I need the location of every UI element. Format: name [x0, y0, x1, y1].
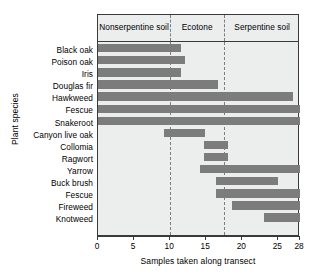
category-label: Douglas fir — [18, 80, 93, 92]
category-label: Hawkweed — [18, 92, 93, 104]
x-axis-tick — [97, 236, 98, 240]
bar — [216, 177, 278, 185]
x-axis-tick — [241, 236, 242, 240]
plot-area — [97, 42, 299, 236]
category-label: Fescue — [18, 189, 93, 201]
category-label-list: Black oak Poison oak Iris Douglas fir Ha… — [18, 44, 93, 225]
x-axis-tick-label: 10 — [157, 241, 181, 251]
category-label: Ragwort — [18, 153, 93, 165]
x-axis-tick-label: 15 — [193, 241, 217, 251]
bar — [98, 44, 181, 52]
x-axis-tick-label: 25 — [265, 241, 289, 251]
zone-header-label: Serpentine soil — [234, 23, 290, 33]
category-label: Iris — [18, 68, 93, 80]
chart-container: Plant species Black oak Poison oak Iris … — [0, 0, 331, 280]
bar — [98, 117, 300, 125]
category-label: Buck brush — [18, 177, 93, 189]
category-label: Fescue — [18, 104, 93, 116]
x-axis-tick-label: 20 — [229, 241, 253, 251]
category-label: Yarrow — [18, 165, 93, 177]
x-axis-tick — [205, 236, 206, 240]
x-axis-tick-label: 0 — [85, 241, 109, 251]
bar — [232, 201, 300, 209]
zone-header-label: Nonserpentine soil — [99, 23, 169, 33]
category-label: Black oak — [18, 44, 93, 56]
zone-header-label: Ecotone — [182, 23, 213, 33]
bar — [164, 129, 205, 137]
zone-header-cell: Serpentine soil — [224, 15, 300, 41]
zone-divider — [224, 15, 225, 41]
bar — [204, 153, 228, 161]
x-axis-tick-label: 28 — [287, 241, 311, 251]
zone-header-cell: Nonserpentine soil — [98, 15, 170, 41]
bar — [98, 68, 181, 76]
category-label: Poison oak — [18, 56, 93, 68]
x-axis-tick — [133, 236, 134, 240]
category-label: Knotweed — [18, 213, 93, 225]
x-axis-tick — [277, 236, 278, 240]
bar — [216, 189, 300, 197]
x-axis-tick — [169, 236, 170, 240]
zone-divider — [170, 15, 171, 41]
x-axis-line — [97, 236, 299, 237]
category-label: Canyon live oak — [18, 129, 93, 141]
zone-divider — [224, 42, 225, 235]
x-axis-title: Samples taken along transect — [97, 256, 299, 266]
bar — [98, 56, 185, 64]
bar — [98, 105, 300, 113]
bar — [98, 80, 218, 88]
zone-header-cell: Ecotone — [170, 15, 224, 41]
category-label: Collomia — [18, 141, 93, 153]
x-axis-tick-label: 5 — [121, 241, 145, 251]
bar — [98, 92, 293, 100]
category-label: Fireweed — [18, 201, 93, 213]
bar — [204, 141, 228, 149]
category-label: Snakeroot — [18, 117, 93, 129]
bar — [264, 213, 300, 221]
bar — [200, 165, 300, 173]
x-axis-tick — [299, 236, 300, 240]
zone-header-band: Nonserpentine soilEcotoneSerpentine soil — [97, 14, 299, 42]
